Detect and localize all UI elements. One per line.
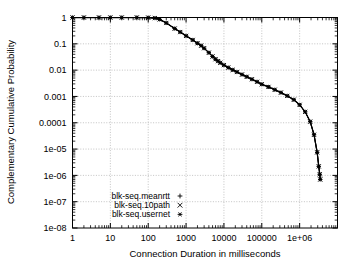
y-tick-label: 1e-05 — [43, 144, 66, 154]
x-tick-label: 100 — [141, 233, 156, 243]
x-tick-label: 100000 — [247, 233, 277, 243]
y-tick-label: 0.1 — [54, 39, 67, 49]
y-tick-label: 0.01 — [49, 65, 67, 75]
ccdf-chart-figure: 1101001000100001000001e+06 10.10.010.001… — [0, 0, 355, 274]
x-tick-label: 1000 — [176, 233, 196, 243]
x-tick-label: 1e+06 — [287, 233, 312, 243]
x-tick-label: 10000 — [211, 233, 236, 243]
legend-label: blk-seq.usernet — [112, 209, 171, 219]
y-tick-label: 1e-07 — [43, 197, 66, 207]
x-tick-labels: 1101001000100001000001e+06 — [70, 233, 312, 243]
y-tick-label: 0.001 — [44, 92, 67, 102]
y-tick-label: 1e-08 — [43, 223, 66, 233]
x-axis-title: Connection Duration in milliseconds — [129, 248, 280, 259]
chart-canvas: 1101001000100001000001e+06 10.10.010.001… — [0, 0, 355, 274]
y-tick-label: 1 — [61, 13, 66, 23]
y-axis-title: Complementary Cumulative Probability — [5, 40, 16, 204]
y-tick-label: 0.0001 — [39, 118, 67, 128]
x-tick-label: 1 — [70, 233, 75, 243]
y-tick-label: 1e-06 — [43, 171, 66, 181]
x-tick-label: 10 — [105, 233, 115, 243]
